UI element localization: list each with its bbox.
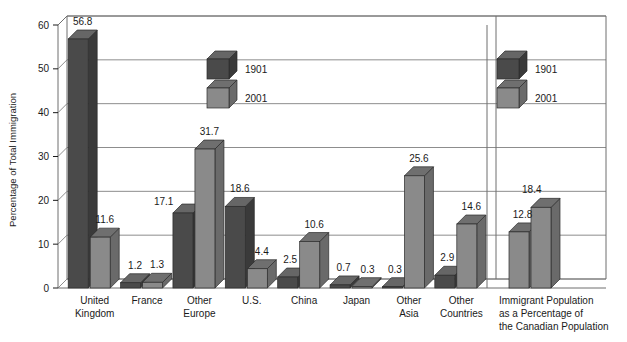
legend-swatch-front <box>207 59 229 79</box>
bar-side-face <box>215 140 224 288</box>
bar-front-face <box>435 275 455 288</box>
value-label-2001-1: 1.3 <box>150 259 164 270</box>
y-tick-label-50: 50 <box>38 63 50 74</box>
bar-front-face <box>352 287 372 288</box>
value-label-2001-2: 31.7 <box>200 126 220 137</box>
category-label-5-line0: Japan <box>343 295 370 306</box>
bar-front-face <box>225 206 245 288</box>
legend-center-label-2001: 2001 <box>245 93 268 104</box>
grouped-3d-bar-chart: 0102030405060 Percentage of Total Immigr… <box>0 0 627 342</box>
bar-front-face <box>531 207 551 288</box>
bar-front-face <box>68 39 88 288</box>
value-label-2001-8: 18.4 <box>522 184 542 195</box>
value-label-1901-1: 1.2 <box>128 260 142 271</box>
value-label-1901-8: 12.8 <box>513 209 533 220</box>
category-label-8-line1: as a Percentage of <box>499 308 583 319</box>
bar-side-face <box>110 228 119 288</box>
category-label-8-line0: Immigrant Population <box>499 295 594 306</box>
category-label-8-line2: the Canadian Population <box>499 321 609 332</box>
bar-front-face <box>195 149 215 288</box>
y-tick-label-20: 20 <box>38 195 50 206</box>
category-label-6-line0: Other <box>396 295 422 306</box>
legend-right-swatch-1901 <box>497 51 527 79</box>
y-tick-label-10: 10 <box>38 239 50 250</box>
bar-side-face <box>551 198 560 288</box>
y-tick-label-60: 60 <box>38 20 50 31</box>
legend-swatch-front <box>207 88 229 108</box>
y-tick-label-40: 40 <box>38 107 50 118</box>
bar-front-face <box>330 285 350 288</box>
bar-front-face <box>90 237 110 288</box>
value-label-1901-5: 0.7 <box>337 262 351 273</box>
value-label-2001-4: 10.6 <box>304 219 324 230</box>
legend-swatch-front <box>497 59 519 79</box>
value-label-2001-0: 11.6 <box>95 214 114 225</box>
bar-front-face <box>509 232 529 288</box>
bar-front-face <box>457 224 477 288</box>
bar-front-face <box>121 283 141 288</box>
bar-front-face <box>300 242 320 288</box>
value-label-2001-5: 0.3 <box>361 264 375 275</box>
category-label-6-line1: Asia <box>399 308 419 319</box>
value-label-2001-6: 25.6 <box>409 153 429 164</box>
value-label-1901-3: 18.6 <box>230 183 250 194</box>
bar-front-face <box>278 277 298 288</box>
legend-center-swatch-1901 <box>207 51 237 79</box>
legend-center-label-1901: 1901 <box>245 64 268 75</box>
bar-front-face <box>173 213 193 288</box>
category-label-1-line0: France <box>132 295 164 306</box>
category-label-4-line0: China <box>291 295 318 306</box>
category-label-2-line0: Other <box>187 295 213 306</box>
category-label-7-line1: Countries <box>440 308 483 319</box>
category-label-0-line1: Kingdom <box>75 308 114 319</box>
bar-2001-3 <box>247 260 276 288</box>
bar-2001-0 <box>90 228 119 288</box>
legend-center-swatch-2001 <box>207 80 237 108</box>
value-label-1901-7: 2.9 <box>440 252 454 263</box>
value-label-1901-0: 56.8 <box>73 16 93 27</box>
y-tick-label-30: 30 <box>38 151 50 162</box>
category-label-3-line0: U.S. <box>242 295 261 306</box>
bar-front-face <box>382 287 402 288</box>
value-label-1901-6: 0.3 <box>388 264 402 275</box>
legend-swatch-front <box>497 88 519 108</box>
legend-right-label-2001: 2001 <box>535 93 558 104</box>
bar-2001-7 <box>457 215 486 288</box>
y-axis-title: Percentage of Total Immigration <box>7 93 18 227</box>
value-label-2001-3: 4.4 <box>255 246 269 257</box>
bar-front-face <box>247 269 267 288</box>
bar-side-face <box>424 167 433 288</box>
value-label-1901-2: 17.1 <box>154 196 174 207</box>
bar-front-face <box>143 282 163 288</box>
bar-side-face <box>320 233 329 288</box>
legend-right-swatch-2001 <box>497 80 527 108</box>
value-label-2001-7: 14.6 <box>462 201 482 212</box>
y-tick-label-0: 0 <box>43 283 49 294</box>
bar-2001-6 <box>404 167 433 288</box>
category-label-0-line0: United <box>80 295 109 306</box>
bar-side-face <box>477 215 486 288</box>
category-label-2-line1: Europe <box>183 308 216 319</box>
chart-container: 0102030405060 Percentage of Total Immigr… <box>0 0 627 342</box>
bar-front-face <box>404 176 424 288</box>
category-label-7-line0: Other <box>449 295 475 306</box>
bar-2001-4 <box>300 233 329 288</box>
legend-right-label-1901: 1901 <box>535 64 558 75</box>
bar-2001-8 <box>531 198 560 288</box>
value-label-1901-4: 2.5 <box>283 254 297 265</box>
bar-2001-2 <box>195 140 224 288</box>
